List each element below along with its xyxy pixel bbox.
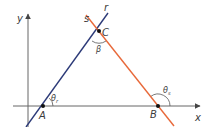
point-c — [97, 29, 101, 33]
line-r-label: r — [104, 2, 109, 13]
diagram-canvas: y x r s A B C θr θs β — [0, 0, 210, 127]
point-a-label: A — [38, 110, 46, 121]
beta-arc — [92, 41, 106, 43]
angle-theta-s-label: θs — [163, 86, 171, 96]
point-b-label: B — [150, 109, 157, 120]
angle-theta-r-label: θr — [51, 94, 59, 104]
point-a — [41, 104, 45, 108]
point-c-label: C — [102, 27, 109, 38]
point-b — [156, 104, 160, 108]
angle-beta-label: β — [95, 45, 101, 54]
x-axis-label: x — [194, 112, 201, 123]
y-axis-label: y — [16, 13, 24, 24]
line-s-label: s — [84, 13, 89, 24]
